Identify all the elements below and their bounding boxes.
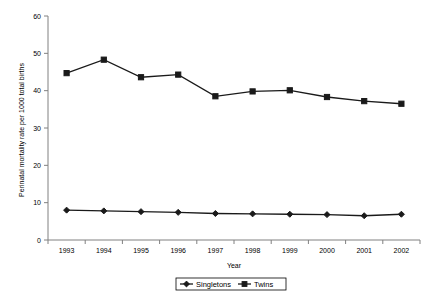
data-point-marker xyxy=(138,209,144,215)
series-singletons xyxy=(64,207,405,219)
data-point-marker xyxy=(101,57,106,62)
x-tick-label: 1993 xyxy=(59,247,75,254)
legend-label-singletons: Singletons xyxy=(196,280,231,289)
y-axis-title: Perinatal mortality rate per 1000 total … xyxy=(18,63,26,197)
x-tick-label: 1997 xyxy=(208,247,224,254)
chart-container: Perinatal mortality rate per 1000 total … xyxy=(0,0,445,303)
data-point-marker xyxy=(213,94,218,99)
y-tick-label: 10 xyxy=(33,199,41,206)
x-axis-ticks: 1993199419951996199719981999200020012002 xyxy=(48,240,420,254)
x-axis-title-text: Year xyxy=(227,262,242,269)
data-point-marker xyxy=(176,72,181,77)
y-tick-label: 0 xyxy=(37,237,41,244)
data-point-marker xyxy=(287,88,292,93)
data-point-marker xyxy=(324,94,329,99)
series-twins xyxy=(64,57,404,106)
line-chart: Perinatal mortality rate per 1000 total … xyxy=(0,0,445,303)
data-point-marker xyxy=(64,207,70,213)
data-point-marker xyxy=(250,89,255,94)
data-point-marker xyxy=(287,211,293,217)
data-point-marker xyxy=(324,212,330,218)
x-axis-title: Year xyxy=(227,262,242,269)
y-axis-title-text: Perinatal mortality rate per 1000 total … xyxy=(18,63,26,197)
x-tick-label: 2002 xyxy=(394,247,410,254)
data-point-marker xyxy=(138,75,143,80)
y-tick-label: 50 xyxy=(33,50,41,57)
y-axis-ticks: 0102030405060 xyxy=(33,13,48,244)
data-point-marker xyxy=(250,211,256,217)
data-point-marker xyxy=(212,210,218,216)
data-series-layer xyxy=(64,57,405,219)
y-tick-label: 20 xyxy=(33,162,41,169)
data-point-marker xyxy=(361,213,367,219)
y-tick-label: 30 xyxy=(33,125,41,132)
legend-marker-twins xyxy=(242,282,247,287)
x-tick-label: 2001 xyxy=(356,247,372,254)
series-line xyxy=(67,60,402,104)
data-point-marker xyxy=(175,209,181,215)
data-point-marker xyxy=(399,101,404,106)
x-tick-label: 2000 xyxy=(319,247,335,254)
data-point-marker xyxy=(362,99,367,104)
y-tick-label: 40 xyxy=(33,87,41,94)
data-point-marker xyxy=(398,211,404,217)
data-point-marker xyxy=(64,71,69,76)
y-tick-label: 60 xyxy=(33,13,41,20)
x-tick-label: 1995 xyxy=(133,247,149,254)
series-line xyxy=(67,210,402,216)
x-tick-label: 1996 xyxy=(170,247,186,254)
x-tick-label: 1994 xyxy=(96,247,112,254)
x-tick-label: 1998 xyxy=(245,247,261,254)
x-tick-label: 1999 xyxy=(282,247,298,254)
data-point-marker xyxy=(101,208,107,214)
legend-label-twins: Twins xyxy=(254,280,273,289)
chart-legend: SingletonsTwins xyxy=(176,278,286,290)
